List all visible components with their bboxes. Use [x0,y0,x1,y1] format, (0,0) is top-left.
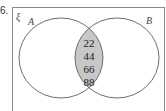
venn-diagram: ξ A B 22 44 66 88 [0,0,166,111]
intersection-value: 22 [84,37,95,49]
intersection-value: 66 [84,63,96,75]
set-b-label: B [146,15,152,26]
universal-set-label: ξ [16,11,21,23]
set-a-label: A [27,16,35,27]
intersection-value: 88 [84,76,96,88]
intersection-value: 44 [84,50,96,62]
